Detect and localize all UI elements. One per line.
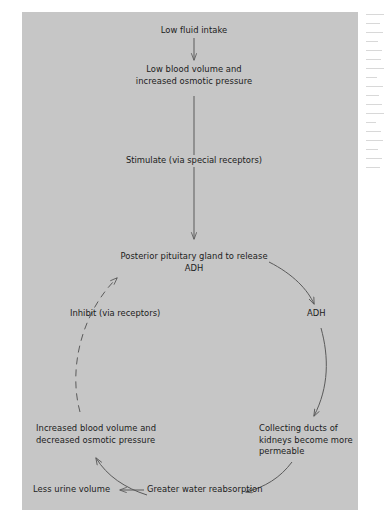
edge-increased-blood-volume-to-pituitary (76, 278, 117, 412)
edge-label-stimulate: Stimulate (via special receptors) (123, 155, 265, 167)
node-low-blood-volume: Low blood volume and increased osmotic p… (136, 64, 252, 87)
page-edge-bleed (366, 14, 388, 264)
diagram-panel: Low fluid intake Low blood volume and in… (22, 12, 358, 510)
node-greater-water-reabsorption: Greater water reabsorption (147, 484, 263, 496)
edge-label-inhibit: Inhibit (via receptors) (70, 308, 160, 320)
node-increased-blood-volume: Increased blood volume and decreased osm… (36, 423, 156, 446)
edge-label-adh: ADH (307, 308, 325, 320)
node-posterior-pituitary: Posterior pituitary gland to release ADH (112, 251, 276, 274)
node-collecting-ducts: Collecting ducts of kidneys become more … (259, 423, 353, 458)
node-low-fluid-intake: Low fluid intake (161, 25, 228, 37)
node-less-urine-volume: Less urine volume (33, 484, 110, 496)
edge-adh-to-collecting-ducts (314, 328, 326, 416)
